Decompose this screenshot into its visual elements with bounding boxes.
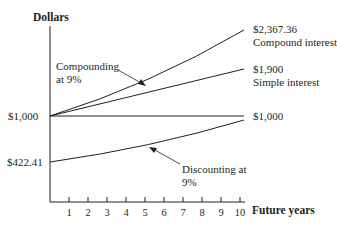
y-label-422: $422.41 <box>7 156 43 168</box>
compounding-arrowhead <box>138 79 146 86</box>
y-axis-label: Dollars <box>33 11 69 23</box>
compound-caption: Compound interest <box>253 36 337 48</box>
simple-caption: Simple interest <box>253 76 319 88</box>
discounting-curve <box>50 120 244 162</box>
x-tick-label: 9 <box>214 207 228 218</box>
principal-value: $1,000 <box>253 110 283 122</box>
x-tick-label: 4 <box>119 207 133 218</box>
simple-value: $1,900 <box>253 63 283 75</box>
y-label-1000: $1,000 <box>8 110 38 122</box>
discounting-annotation-l2: 9% <box>182 176 197 188</box>
x-tick-label: 8 <box>195 207 209 218</box>
x-tick-label: 7 <box>176 207 190 218</box>
discounting-annotation-l1: Discounting at <box>182 163 246 175</box>
x-tick-label: 6 <box>157 207 171 218</box>
x-tick-label: 2 <box>81 207 95 218</box>
x-ticks <box>69 197 240 202</box>
discounting-arrow <box>153 149 180 164</box>
compounding-annotation-l1: Compounding <box>56 60 119 72</box>
x-tick-label: 5 <box>138 207 152 218</box>
x-tick-label: 1 <box>62 207 76 218</box>
compounding-annotation-l2: at 9% <box>56 73 81 85</box>
compounding-arrow <box>118 70 143 84</box>
x-tick-label: 10 <box>233 207 247 218</box>
x-axis-label: Future years <box>252 204 315 216</box>
discounting-arrowhead <box>149 147 157 153</box>
x-tick-label: 3 <box>100 207 114 218</box>
compound-value: $2,367.36 <box>253 23 297 35</box>
